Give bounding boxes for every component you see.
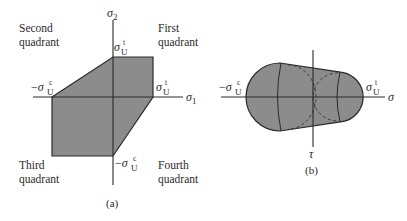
quadrant-label-fourth: Fourth quadrant <box>158 159 199 186</box>
neg-sigma-uc-label: −σ c U <box>219 78 242 97</box>
svg-text:σ: σ <box>156 80 163 94</box>
safe-region-polygon <box>52 57 153 156</box>
svg-text:Fourth: Fourth <box>158 159 189 171</box>
svg-text:t: t <box>123 38 126 47</box>
neg-sigma-uc-label-bottom: −σ c U <box>115 154 138 173</box>
quadrant-label-first: First quadrant <box>158 22 199 49</box>
svg-text:Third: Third <box>19 159 45 171</box>
sigma-axis-label: σ <box>388 90 395 104</box>
svg-text:−σ: −σ <box>115 156 129 170</box>
svg-text:U: U <box>47 87 54 97</box>
svg-text:−σ: −σ <box>219 80 233 94</box>
tau-axis-label: τ <box>309 147 314 161</box>
svg-text:First: First <box>158 22 180 34</box>
svg-text:U: U <box>121 47 128 57</box>
svg-text:c: c <box>133 154 137 163</box>
svg-text:quadrant: quadrant <box>19 36 60 49</box>
figure-b-caption: (b) <box>305 164 318 177</box>
svg-text:σ: σ <box>114 40 121 54</box>
svg-text:c: c <box>237 78 241 87</box>
svg-text:U: U <box>163 87 170 97</box>
svg-text:t: t <box>165 78 168 87</box>
svg-text:quadrant: quadrant <box>19 173 60 186</box>
svg-text:U: U <box>373 87 380 97</box>
sigma-ut-label: σ t U <box>366 78 380 97</box>
neg-sigma-uc-label-left: −σ c U <box>31 78 54 97</box>
svg-text:U: U <box>131 163 138 173</box>
svg-text:quadrant: quadrant <box>158 173 199 186</box>
svg-text:σ: σ <box>366 80 373 94</box>
figure-a-caption: (a) <box>106 197 119 210</box>
svg-text:t: t <box>375 78 378 87</box>
sigma-ut-label-top: σ t U <box>114 38 128 57</box>
svg-text:quadrant: quadrant <box>158 36 199 49</box>
figure-canvas: σ2 σ1 σ t U σ t U −σ c U −σ c U Second q <box>0 0 407 221</box>
sigma1-axis-label: σ1 <box>186 90 196 106</box>
sigma-ut-label-right: σ t U <box>156 78 170 97</box>
quadrant-label-second: Second quadrant <box>19 22 60 49</box>
sigma2-axis-label: σ2 <box>107 6 117 22</box>
svg-text:c: c <box>49 78 53 87</box>
svg-text:Second: Second <box>19 22 53 34</box>
figure-b: σ τ −σ c U σ t U (b) <box>219 50 395 177</box>
svg-text:−σ: −σ <box>31 80 45 94</box>
quadrant-label-third: Third quadrant <box>19 159 60 186</box>
figure-a: σ2 σ1 σ t U σ t U −σ c U −σ c U Second q <box>19 6 199 210</box>
svg-text:U: U <box>235 87 242 97</box>
